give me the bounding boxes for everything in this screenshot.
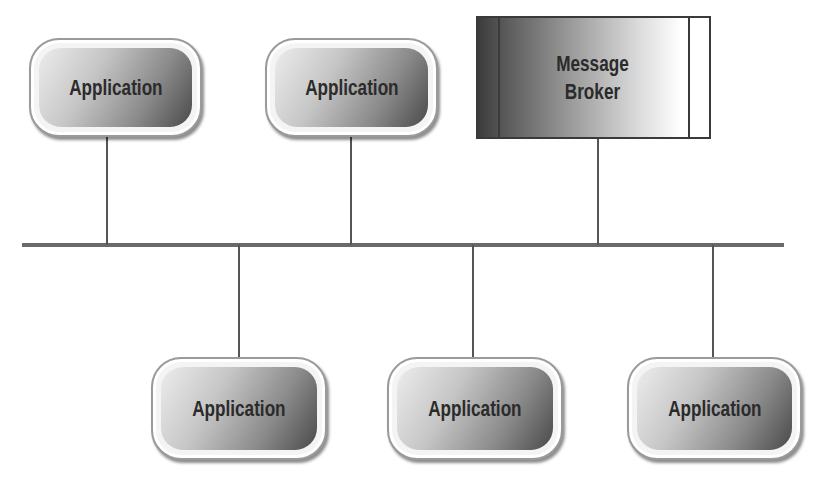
application-node-fill: Application [275, 48, 428, 127]
application-node-bottom-1: Application [151, 357, 327, 460]
connector-bottom-app-3 [712, 245, 714, 358]
application-node-fill: Application [161, 367, 317, 450]
application-node-fill: Application [39, 48, 192, 127]
application-node-top-1: Application [29, 38, 202, 137]
application-label: Application [192, 396, 285, 422]
connector-bottom-app-1 [238, 245, 240, 358]
broker-label-line1: Message [556, 50, 629, 78]
connector-bottom-app-2 [472, 245, 474, 358]
application-node-fill: Application [637, 367, 792, 450]
message-bus-line [22, 243, 784, 247]
application-node-fill: Application [397, 367, 553, 450]
application-label: Application [69, 75, 162, 101]
broker-right-divider [688, 18, 690, 137]
message-broker-node: Message Broker [476, 16, 711, 139]
connector-top-app-2 [350, 137, 352, 245]
broker-label-block: Message Broker [500, 18, 685, 137]
application-node-top-2: Application [265, 38, 438, 137]
application-label: Application [305, 75, 398, 101]
application-label: Application [428, 396, 521, 422]
application-node-bottom-2: Application [387, 357, 563, 460]
broker-label-line2: Broker [565, 78, 620, 106]
application-label: Application [668, 396, 761, 422]
connector-broker [597, 139, 599, 245]
application-node-bottom-3: Application [627, 357, 802, 460]
diagram-canvas: Application Application Message Broker A… [0, 0, 820, 484]
connector-top-app-1 [106, 137, 108, 245]
